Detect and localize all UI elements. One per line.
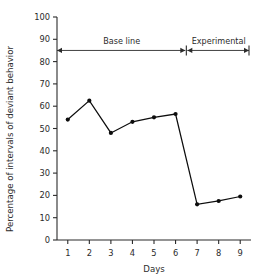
phase-label-experimental: Experimental — [192, 36, 246, 46]
x-tick-label: 1 — [65, 248, 70, 258]
y-tick-label: 60 — [39, 101, 50, 111]
data-point — [152, 115, 156, 119]
y-tick-label: 80 — [39, 57, 50, 67]
y-tick-label: 50 — [39, 124, 50, 134]
data-point — [195, 202, 199, 206]
y-tick-label: 70 — [39, 79, 50, 89]
x-tick-label: 2 — [87, 248, 92, 258]
phase-arrowhead — [187, 48, 192, 53]
x-tick-label: 7 — [194, 248, 199, 258]
y-tick-label: 90 — [39, 34, 50, 44]
data-point-markers — [66, 99, 243, 207]
line-chart-svg: Percentage of intervals of deviant behav… — [0, 0, 265, 279]
x-axis-ticks: 123456789 — [65, 240, 243, 258]
y-tick-label: 20 — [39, 190, 50, 200]
phase-annotation-bar: Base lineExperimental — [57, 36, 249, 55]
phase-label-baseline: Base line — [103, 36, 140, 46]
y-tick-label: 0 — [45, 235, 50, 245]
data-point — [130, 120, 134, 124]
y-tick-label: 40 — [39, 146, 50, 156]
y-tick-label: 100 — [34, 12, 50, 22]
y-axis-title: Percentage of intervals of deviant behav… — [5, 46, 15, 232]
x-axis-title: Days — [143, 264, 165, 274]
x-tick-label: 9 — [238, 248, 243, 258]
x-tick-label: 4 — [130, 248, 135, 258]
x-tick-label: 5 — [151, 248, 156, 258]
x-tick-label: 8 — [216, 248, 221, 258]
data-point — [87, 99, 91, 103]
x-tick-label: 6 — [173, 248, 178, 258]
data-point — [66, 117, 70, 121]
x-tick-label: 3 — [108, 248, 113, 258]
data-point — [217, 199, 221, 203]
phase-arrowhead — [57, 48, 62, 53]
chart-figure: Percentage of intervals of deviant behav… — [0, 0, 265, 279]
phase-arrowhead — [244, 48, 249, 53]
y-tick-label: 10 — [39, 213, 50, 223]
phase-arrowhead — [180, 48, 185, 53]
y-tick-label: 30 — [39, 168, 50, 178]
data-point — [109, 131, 113, 135]
data-point — [173, 112, 177, 116]
y-axis-ticks: 0102030405060708090100 — [34, 12, 57, 245]
data-point — [238, 194, 242, 198]
